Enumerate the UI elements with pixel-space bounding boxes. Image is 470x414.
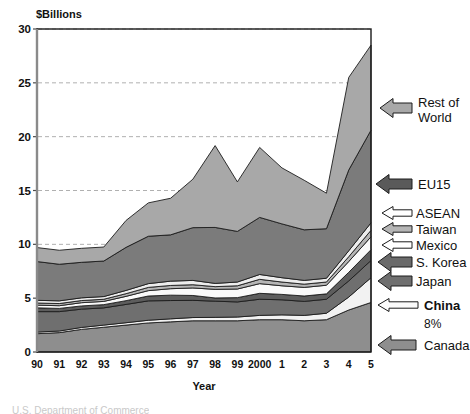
x-axis-tick-label: 2 bbox=[301, 358, 307, 370]
x-axis-tick-label: 94 bbox=[120, 358, 132, 370]
y-axis-tick-label: 20 bbox=[18, 131, 31, 143]
legend-item-taiwan: Taiwan bbox=[382, 222, 456, 237]
legend-sublabel: 8% bbox=[424, 317, 442, 331]
y-axis-tick-label: 25 bbox=[18, 77, 31, 89]
x-axis-tick-label: 91 bbox=[53, 358, 65, 370]
legend-label: S. Korea bbox=[416, 255, 467, 270]
legend-label: Japan bbox=[416, 274, 451, 289]
legend-label: Canada bbox=[424, 338, 470, 353]
legend-item-s-korea: S. Korea bbox=[378, 253, 467, 272]
x-axis-tick-label: 2000 bbox=[248, 358, 272, 370]
legend-item-mexico: Mexico bbox=[382, 238, 457, 253]
x-axis-tick-label: 97 bbox=[187, 358, 199, 370]
stacked-area-chart: $Billions 051015202530 90919293949596979… bbox=[0, 0, 470, 414]
x-axis-tick-label: 4 bbox=[346, 358, 352, 370]
legend-label-line2: World bbox=[418, 110, 452, 125]
x-axis-title: Year bbox=[192, 380, 216, 392]
legend-label: Mexico bbox=[416, 238, 457, 253]
x-axis-tick-label: 93 bbox=[98, 358, 110, 370]
source-caption: U.S. Department of Commerce bbox=[12, 404, 149, 414]
legend-label: Rest of bbox=[418, 95, 460, 110]
y-axis-tick-label: 15 bbox=[18, 185, 31, 197]
x-axis-tick-label: 98 bbox=[209, 358, 221, 370]
x-axis-tick-label: 92 bbox=[76, 358, 88, 370]
x-axis-tick-label: 3 bbox=[324, 358, 330, 370]
legend-label: Taiwan bbox=[416, 222, 456, 237]
legend-label: ASEAN bbox=[416, 206, 460, 221]
x-axis-tick-label: 99 bbox=[232, 358, 244, 370]
chart-root: $Billions 051015202530 90919293949596979… bbox=[0, 0, 470, 414]
legend-label: China bbox=[424, 298, 461, 313]
x-axis-tick-label: 5 bbox=[368, 358, 374, 370]
y-axis-tick-label: 5 bbox=[25, 292, 32, 304]
x-axis-tick-label: 95 bbox=[142, 358, 154, 370]
x-axis-tick-label: 1 bbox=[279, 358, 285, 370]
y-axis-tick-label: 30 bbox=[18, 23, 31, 35]
y-axis-tick-label: 0 bbox=[25, 346, 31, 358]
x-axis-tick-label: 90 bbox=[31, 358, 43, 370]
x-axis-tick-label: 96 bbox=[165, 358, 177, 370]
y-axis-unit-label: $Billions bbox=[36, 8, 82, 20]
y-axis-tick-label: 10 bbox=[18, 238, 31, 250]
legend-label: EU15 bbox=[418, 177, 451, 192]
